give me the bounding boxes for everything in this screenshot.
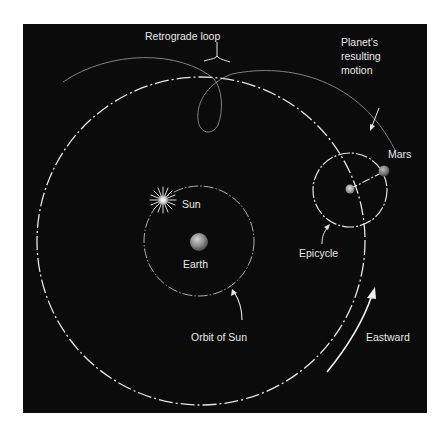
label-planet-motion-1: Planet's: [341, 36, 378, 48]
sun-icon: [150, 187, 176, 213]
label-planet-motion-2: resulting: [341, 50, 381, 62]
epicycle-pointer-arrowhead: [324, 224, 330, 230]
epicycle-diagram: Retrograde loop Planet's resulting motio…: [23, 24, 427, 413]
retrograde-bracket: [204, 42, 230, 62]
label-retrograde-loop: Retrograde loop: [145, 30, 220, 42]
mars-icon: [379, 166, 390, 177]
earth-icon: [190, 233, 208, 251]
label-eastward: Eastward: [366, 331, 410, 343]
eastward-arrowhead: [367, 287, 376, 299]
orbit-pointer-arrow: [234, 292, 242, 320]
label-orbit-of-sun: Orbit of Sun: [191, 331, 247, 343]
epicycle-radius: [350, 172, 383, 189]
epicycle-pointer-arrow: [322, 227, 328, 244]
motion-pointer-arrowhead: [370, 124, 375, 131]
label-earth: Earth: [183, 258, 208, 270]
label-mars: Mars: [388, 148, 411, 160]
epicycle-center-icon: [346, 185, 355, 194]
label-planet-motion-3: motion: [341, 64, 373, 76]
label-sun: Sun: [182, 198, 201, 210]
label-epicycle: Epicycle: [299, 247, 338, 259]
